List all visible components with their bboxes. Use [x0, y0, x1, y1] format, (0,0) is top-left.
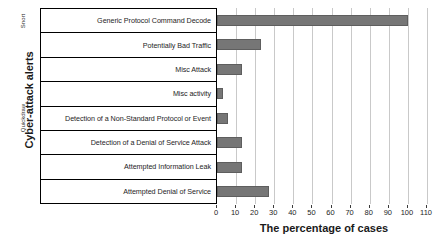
category-label: Attempted Denial of Service: [41, 180, 216, 203]
bar: [217, 137, 242, 148]
x-tick-label: 30: [269, 208, 277, 217]
x-tick-label: 40: [288, 208, 296, 217]
x-axis-ticks: 0102030405060708090100110: [216, 205, 426, 219]
bar-row: [217, 33, 426, 58]
bar-row: [217, 8, 426, 33]
category-label-column: Generic Protocol Command DecodePotential…: [40, 8, 217, 204]
bar: [217, 64, 242, 75]
x-tick-label: 100: [401, 208, 414, 217]
x-axis-title: The percentage of cases: [216, 222, 432, 234]
cyber-attack-alerts-bar-chart: Cyber-attack alerts Snort Quickdraw Gene…: [0, 0, 445, 249]
x-tick-label: 10: [231, 208, 239, 217]
bar-row: [217, 131, 426, 156]
bar-row: [217, 155, 426, 180]
x-tick-label: 50: [307, 208, 315, 217]
category-label: Misc Attack: [41, 58, 216, 82]
x-tick-label: 70: [345, 208, 353, 217]
bar-row: [217, 82, 426, 107]
bar-row: [217, 106, 426, 131]
bar-row: [217, 180, 426, 205]
x-tick-label: 90: [384, 208, 392, 217]
group-label-quickdraw: Quickdraw: [20, 92, 26, 144]
bar: [217, 186, 269, 197]
gridline: [427, 8, 428, 204]
bar-series: [217, 8, 426, 204]
category-label: Potentially Bad Traffic: [41, 33, 216, 57]
x-tick-label: 0: [214, 208, 218, 217]
group-label-snort: Snort: [20, 1, 26, 41]
category-label: Misc activity: [41, 82, 216, 106]
category-label: Detection of a Non-Standard Protocol or …: [41, 107, 216, 131]
bar: [217, 15, 408, 26]
category-label: Generic Protocol Command Decode: [41, 9, 216, 33]
plot-area: [216, 8, 426, 204]
bar: [217, 162, 242, 173]
category-label: Attempted Information Leak: [41, 155, 216, 179]
x-tick-label: 20: [250, 208, 258, 217]
bar: [217, 88, 223, 99]
x-tick-label: 80: [365, 208, 373, 217]
x-tick-label: 60: [326, 208, 334, 217]
x-tick-label: 110: [420, 208, 432, 217]
category-label: Detection of a Denial of Service Attack: [41, 131, 216, 155]
bar: [217, 39, 261, 50]
bar: [217, 113, 228, 124]
bar-row: [217, 57, 426, 82]
